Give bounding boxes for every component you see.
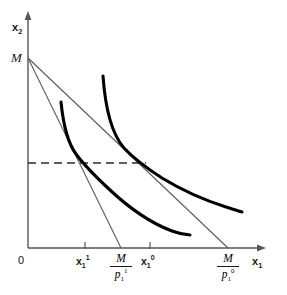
fraction-numerator: M xyxy=(217,253,239,266)
y-axis-label: x2 xyxy=(12,22,22,36)
x-axis-label: x1 xyxy=(252,256,262,270)
fraction-denominator: p10 xyxy=(217,267,239,283)
plot-canvas xyxy=(0,0,287,295)
fraction-denominator: p11 xyxy=(110,267,132,283)
origin-label: 0 xyxy=(18,255,24,266)
fraction-numerator: M xyxy=(110,253,132,266)
indifference-curve-low xyxy=(61,102,190,235)
x-intercept-label-m-over-p1-old: M p10 xyxy=(217,253,239,283)
x-tick-label-x1-new: x11 xyxy=(76,254,90,269)
income-label-m: M xyxy=(11,51,22,64)
x-tick-label-x1-old: x10 xyxy=(141,254,155,269)
x-intercept-label-m-over-p1-new: M p11 xyxy=(110,253,132,283)
y-axis-arrowhead xyxy=(25,11,32,20)
x-axis-arrowhead xyxy=(257,245,266,252)
indifference-curve-high xyxy=(103,76,242,212)
economics-diagram: x2 x1 0 M x11 x10 M p11 M p10 xyxy=(0,0,287,295)
